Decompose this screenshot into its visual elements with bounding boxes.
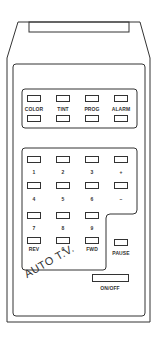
tint-down-button[interactable] <box>56 115 70 122</box>
key-2-label: 2 <box>48 169 78 175</box>
rev-button[interactable] <box>27 237 41 244</box>
key-5[interactable] <box>56 182 70 189</box>
key-plus-label: + <box>106 169 136 175</box>
key-7[interactable] <box>27 212 41 219</box>
key-plus[interactable] <box>114 156 128 163</box>
key-2[interactable] <box>56 156 70 163</box>
key-minus[interactable] <box>114 182 128 189</box>
prog-button[interactable] <box>85 95 99 102</box>
fwd-button[interactable] <box>85 237 99 244</box>
key-4[interactable] <box>27 182 41 189</box>
prog-down-button[interactable] <box>85 115 99 122</box>
key-minus-label: – <box>106 196 136 202</box>
pause-button[interactable] <box>114 239 128 246</box>
key-7-label: 7 <box>19 225 49 231</box>
fwd-label: FWD <box>77 246 107 252</box>
rev-label: REV <box>19 246 49 252</box>
alarm-label: ALARM <box>106 106 136 112</box>
key-1-label: 1 <box>19 169 49 175</box>
pause-label: PAUSE <box>106 250 136 256</box>
key-9[interactable] <box>85 212 99 219</box>
key-3-label: 3 <box>77 169 107 175</box>
tint-label: TINT <box>48 106 78 112</box>
key-8[interactable] <box>56 212 70 219</box>
key-4-label: 4 <box>19 196 49 202</box>
key-3[interactable] <box>85 156 99 163</box>
alarm-down-button[interactable] <box>114 115 128 122</box>
prog-label: PROG <box>77 106 107 112</box>
key-9-label: 9 <box>77 225 107 231</box>
key-6-label: 6 <box>77 196 107 202</box>
key-1[interactable] <box>27 156 41 163</box>
color-label: COLOR <box>19 106 49 112</box>
key-8-label: 8 <box>48 225 78 231</box>
power-label: ON/OFF <box>95 285 125 291</box>
tint-button[interactable] <box>56 95 70 102</box>
key-5-label: 5 <box>48 196 78 202</box>
alarm-button[interactable] <box>114 95 128 102</box>
power-button[interactable] <box>92 274 129 282</box>
color-down-button[interactable] <box>27 115 41 122</box>
key-6[interactable] <box>85 182 99 189</box>
color-button[interactable] <box>27 95 41 102</box>
